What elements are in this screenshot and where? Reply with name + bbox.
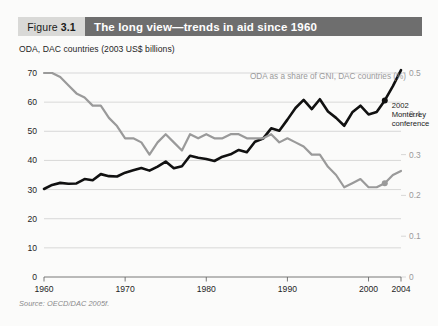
figure-card: Figure 3.1 The long view—trends in aid s…: [0, 0, 438, 326]
y-axis-left-tick-label: 70: [27, 68, 37, 78]
x-axis-tick-label: 1990: [278, 284, 297, 294]
gridlines: [44, 73, 401, 248]
y-axis-left-tick-label: 40: [27, 155, 37, 165]
y-axis-right-tick-label: 0: [409, 272, 414, 282]
annotation-line: conference: [392, 119, 430, 128]
data-series: [44, 70, 401, 189]
y-axis-right-tick-label: 0.1: [409, 231, 421, 241]
y-axis-right-label: ODA as a share of GNI, DAC countries (%): [250, 72, 406, 81]
data-markers: [382, 97, 388, 186]
y-axis-left-tick-label: 0: [32, 272, 37, 282]
chart-plot-area: 010203040506070 00.10.20.30.40.5 1960197…: [0, 0, 438, 326]
data-point-marker: [382, 180, 388, 186]
figure-source: Source: OECD/DAC 2005f.: [19, 299, 109, 308]
right-axis-label-text: ODA as a share of GNI, DAC countries (%): [250, 72, 406, 81]
x-axis-tick-label: 1970: [116, 284, 135, 294]
y-axis-left-tick-label: 10: [27, 243, 37, 253]
annotation-line: Monterrey: [392, 110, 426, 119]
y-axis-left-tick-label: 20: [27, 214, 37, 224]
data-point-marker: [382, 97, 388, 103]
x-axis: 196019701980199020002004: [34, 277, 410, 294]
annotation-line: 2002: [392, 101, 409, 110]
y-axis-left-ticks: 010203040506070: [27, 68, 37, 282]
y-axis-right-ticks: 00.10.20.30.40.5: [401, 68, 421, 282]
y-axis-right-tick-label: 0.3: [409, 150, 421, 160]
y-axis-left-tick-label: 50: [27, 126, 37, 136]
chart-annotations: 2002Monterreyconference: [392, 101, 430, 128]
x-axis-tick-label: 1960: [34, 284, 53, 294]
y-axis-left-tick-label: 60: [27, 97, 37, 107]
x-axis-tick-label: 1980: [197, 284, 216, 294]
chart-svg: 010203040506070 00.10.20.30.40.5 1960197…: [0, 0, 438, 326]
y-axis-right-tick-label: 0.5: [409, 68, 421, 78]
x-axis-tick-label: 2004: [391, 284, 410, 294]
y-axis-right-tick-label: 0.2: [409, 190, 421, 200]
oda-line: [44, 70, 401, 189]
x-axis-tick-label: 2000: [359, 284, 378, 294]
gni-share-line: [44, 73, 401, 187]
y-axis-left-tick-label: 30: [27, 185, 37, 195]
